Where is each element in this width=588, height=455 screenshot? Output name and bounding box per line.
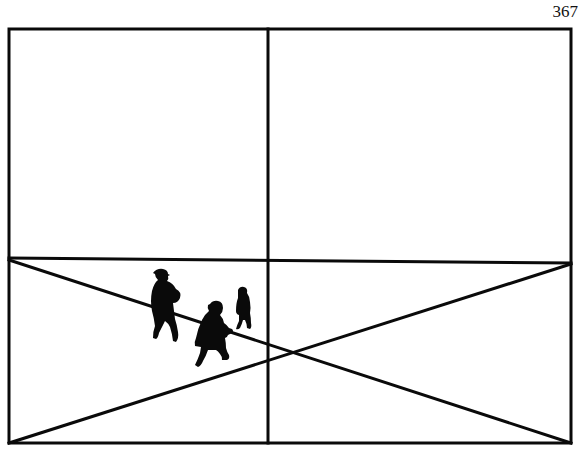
figure-child xyxy=(236,287,251,330)
figure-adult-walking xyxy=(195,301,233,367)
figure-adult-with-hat xyxy=(151,269,181,342)
outer-frame xyxy=(9,29,571,443)
horizontal-divider xyxy=(9,258,571,263)
perspective-diagram xyxy=(0,0,588,455)
